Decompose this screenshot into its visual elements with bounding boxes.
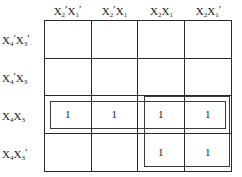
kmap-cell-value: 1 bbox=[205, 109, 211, 120]
kmap-cell-r3c2[interactable]: 1 bbox=[138, 134, 185, 172]
row-label-0-text: X4′X3′ bbox=[2, 33, 30, 46]
kmap-cell-r1c2[interactable] bbox=[138, 59, 185, 97]
kmap-cell-r1c1[interactable] bbox=[92, 59, 139, 97]
kmap-cell-r2c2[interactable]: 1 bbox=[138, 96, 185, 134]
row-label-column: X4′X3′ X4′X3 X4X3 X4X3′ bbox=[0, 20, 44, 172]
kmap-cell-r0c3[interactable] bbox=[185, 21, 232, 59]
column-header-2: X2X1 bbox=[138, 0, 185, 20]
column-header-1: X2′X1 bbox=[91, 0, 138, 20]
kmap-cell-r0c1[interactable] bbox=[92, 21, 139, 59]
kmap-cell-value: 1 bbox=[158, 109, 164, 120]
row-label-2-text: X4X3 bbox=[2, 109, 25, 122]
row-label-1: X4′X3 bbox=[0, 58, 44, 96]
kmap-cell-value: 1 bbox=[158, 147, 164, 158]
kmap-cell-r0c0[interactable] bbox=[45, 21, 92, 59]
row-label-1-text: X4′X3 bbox=[2, 71, 27, 84]
kmap-cell-r1c0[interactable] bbox=[45, 59, 92, 97]
row-label-3-text: X4X3′ bbox=[2, 147, 27, 160]
kmap-cell-r0c2[interactable] bbox=[138, 21, 185, 59]
kmap-cell-value: 1 bbox=[112, 109, 118, 120]
kmap-cell-r2c0[interactable]: 1 bbox=[45, 96, 92, 134]
kmap-cell-r3c1[interactable] bbox=[92, 134, 139, 172]
kmap-cell-r1c3[interactable] bbox=[185, 59, 232, 97]
karnaugh-map: X2′X1′ X2′X1 X2X1 X2X1′ X4′X3′ X4′X3 X4X… bbox=[0, 0, 242, 177]
column-header-0-text: X2′X1′ bbox=[54, 4, 82, 17]
kmap-cell-value: 1 bbox=[65, 109, 71, 120]
column-header-2-text: X2X1 bbox=[150, 4, 173, 17]
kmap-grid: 1 1 1 1 1 1 bbox=[44, 20, 232, 172]
column-header-3-text: X2X1′ bbox=[196, 4, 221, 17]
column-header-0: X2′X1′ bbox=[44, 0, 91, 20]
row-label-2: X4X3 bbox=[0, 96, 44, 134]
row-label-0: X4′X3′ bbox=[0, 20, 44, 58]
column-header-3: X2X1′ bbox=[185, 0, 232, 20]
kmap-cell-r3c3[interactable]: 1 bbox=[185, 134, 232, 172]
kmap-cell-r2c1[interactable]: 1 bbox=[92, 96, 139, 134]
row-label-3: X4X3′ bbox=[0, 134, 44, 172]
kmap-cell-r2c3[interactable]: 1 bbox=[185, 96, 232, 134]
kmap-cell-r3c0[interactable] bbox=[45, 134, 92, 172]
column-header-row: X2′X1′ X2′X1 X2X1 X2X1′ bbox=[44, 0, 232, 20]
kmap-cell-value: 1 bbox=[205, 147, 211, 158]
column-header-1-text: X2′X1 bbox=[102, 4, 127, 17]
